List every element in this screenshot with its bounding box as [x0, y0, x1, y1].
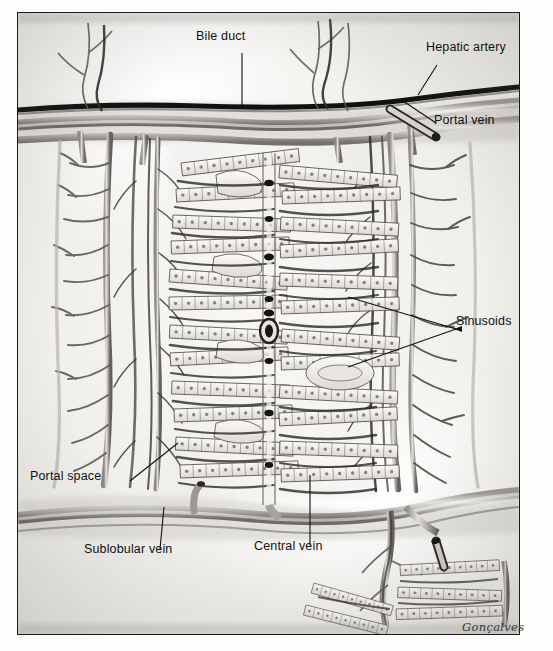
central-vein: [260, 153, 278, 505]
cut-vein-stub-right: [431, 537, 444, 567]
label-central-vein: Central vein: [254, 540, 323, 553]
artist-signature: Gonçalves: [462, 620, 524, 634]
label-hepatic-artery: Hepatic artery: [426, 41, 506, 54]
label-portal-vein: Portal vein: [434, 114, 495, 127]
label-portal-space: Portal space: [30, 470, 101, 483]
label-sinusoids: Sinusoids: [456, 315, 512, 328]
illustration-canvas: Bile duct Hepatic artery Portal vein Sin…: [0, 0, 553, 651]
leader-hepatic-artery: [418, 65, 437, 95]
label-sublobular-vein: Sublobular vein: [84, 543, 172, 556]
label-bile-duct: Bile duct: [196, 30, 245, 43]
